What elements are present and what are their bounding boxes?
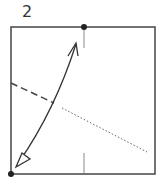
valley-fold-line [11, 83, 54, 103]
fold-arrow [19, 44, 76, 162]
reference-dot-bottom-left [8, 171, 14, 177]
arrowhead-bottom-icon [16, 153, 30, 167]
fold-diagram [0, 0, 161, 189]
hidden-line [62, 108, 147, 152]
paper-square [11, 27, 155, 174]
reference-dot-top [81, 24, 87, 30]
